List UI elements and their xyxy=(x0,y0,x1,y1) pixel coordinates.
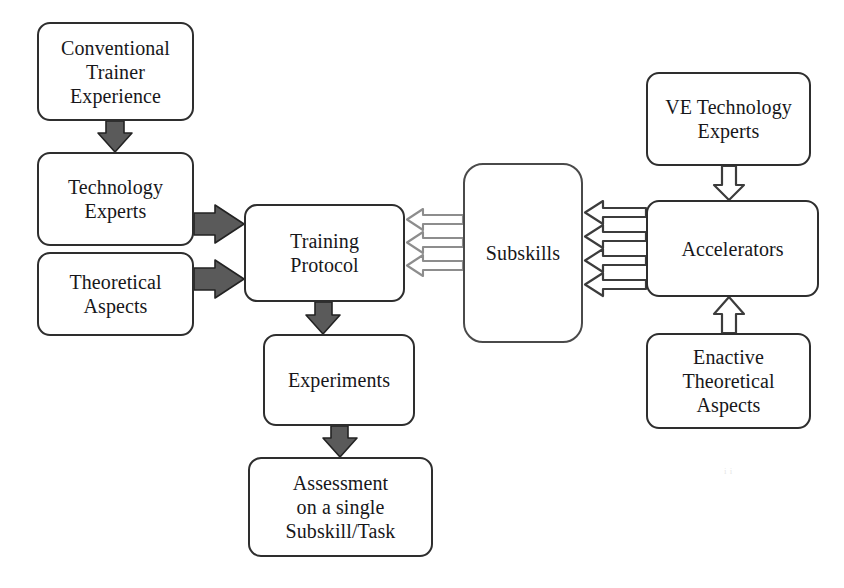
node-label: Conventional Trainer Experience xyxy=(57,36,174,108)
arrow-ve-experts-to-accelerators xyxy=(714,166,744,200)
scan-artifact: i i xyxy=(724,465,742,523)
node-label: Assessment on a single Subskill/Task xyxy=(282,471,400,543)
node-label: Training Protocol xyxy=(286,229,363,277)
node-subskills[interactable]: Subskills xyxy=(463,163,583,343)
node-label: Subskills xyxy=(482,241,564,265)
node-ve-technology-experts[interactable]: VE Technology Experts xyxy=(646,72,811,166)
node-enactive-theoretical-aspects[interactable]: Enactive Theoretical Aspects xyxy=(646,333,811,429)
node-experiments[interactable]: Experiments xyxy=(263,334,415,426)
arrow-experiments-to-assessment xyxy=(323,426,357,457)
arrow-theoretical-to-protocol xyxy=(194,260,244,298)
arrow-protocol-to-experiments xyxy=(306,302,340,334)
arrow-enactive-to-accelerators xyxy=(714,297,744,333)
node-training-protocol[interactable]: Training Protocol xyxy=(244,204,405,302)
diagram-canvas: Conventional Trainer Experience Technolo… xyxy=(0,0,844,588)
arrow-conventional-to-technology xyxy=(98,121,132,152)
arrow-subskills-to-protocol xyxy=(407,209,463,276)
node-label: Theoretical Aspects xyxy=(65,270,165,318)
node-assessment[interactable]: Assessment on a single Subskill/Task xyxy=(248,457,433,557)
node-label: Experiments xyxy=(284,368,394,392)
node-theoretical-aspects[interactable]: Theoretical Aspects xyxy=(37,252,194,336)
node-label: Accelerators xyxy=(677,237,787,261)
node-label: Enactive Theoretical Aspects xyxy=(678,345,778,417)
node-label: VE Technology Experts xyxy=(661,95,796,143)
arrow-technology-to-protocol xyxy=(194,205,244,243)
node-label: Technology Experts xyxy=(64,175,167,223)
node-technology-experts[interactable]: Technology Experts xyxy=(37,152,194,246)
arrow-accelerators-to-subskills xyxy=(585,201,646,296)
node-accelerators[interactable]: Accelerators xyxy=(646,200,819,297)
node-conventional-trainer-experience[interactable]: Conventional Trainer Experience xyxy=(37,22,194,121)
